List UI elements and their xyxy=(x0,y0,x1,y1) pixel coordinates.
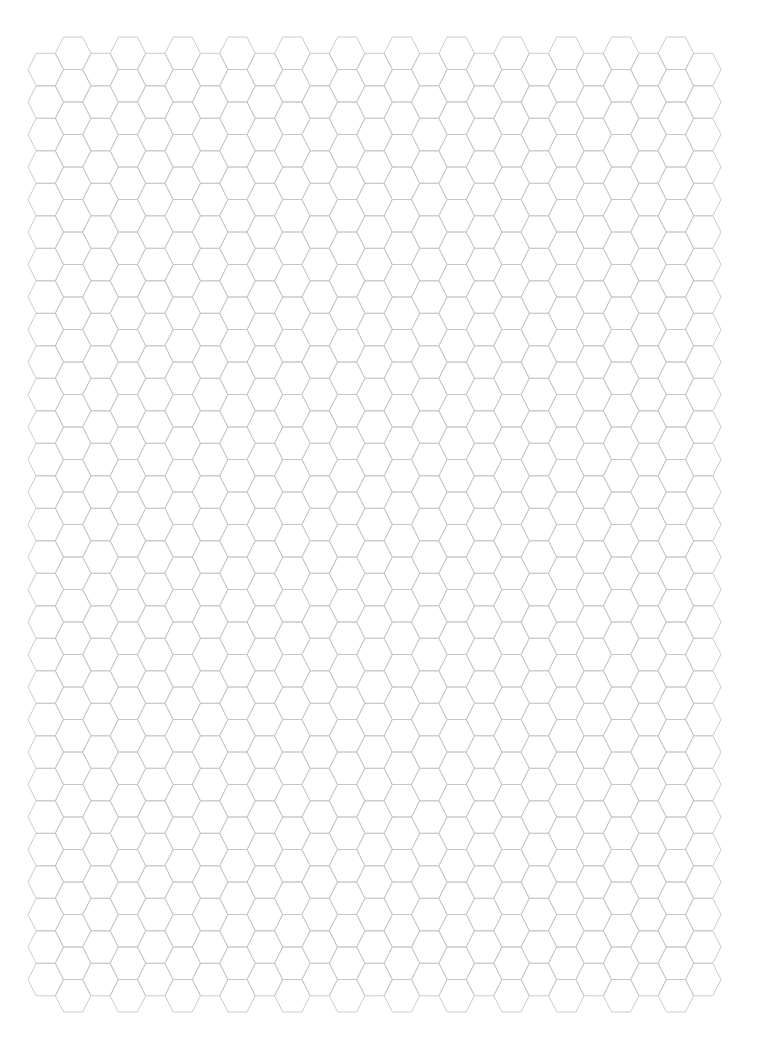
hex-cell xyxy=(686,53,721,86)
hex-cell xyxy=(686,443,721,476)
hexagonal-grid xyxy=(0,0,769,1052)
hex-cell xyxy=(686,151,721,184)
hex-cell xyxy=(686,281,721,314)
hex-cell xyxy=(686,508,721,541)
hex-grid-paper xyxy=(0,0,769,1052)
hex-cell xyxy=(686,736,721,769)
hex-cell xyxy=(686,768,721,801)
hex-cell xyxy=(686,638,721,671)
hex-cell xyxy=(686,833,721,866)
hex-cell xyxy=(686,606,721,639)
hex-cell xyxy=(686,86,721,119)
hex-cell xyxy=(686,541,721,574)
hex-cell xyxy=(686,898,721,931)
hex-cell xyxy=(686,411,721,444)
hex-cell xyxy=(686,671,721,704)
hex-cell xyxy=(686,248,721,280)
hex-cell xyxy=(686,346,721,379)
hex-cell xyxy=(686,183,721,216)
hex-cell xyxy=(686,313,721,346)
hex-cell xyxy=(686,476,721,509)
hex-cell xyxy=(686,866,721,899)
hex-cell xyxy=(686,216,721,249)
hex-cell xyxy=(686,963,721,996)
hex-cell xyxy=(686,931,721,964)
hex-cell xyxy=(686,703,721,736)
hex-cell xyxy=(686,378,721,411)
hex-cell xyxy=(686,573,721,606)
hex-cell xyxy=(686,801,721,834)
hex-cell xyxy=(686,118,721,151)
